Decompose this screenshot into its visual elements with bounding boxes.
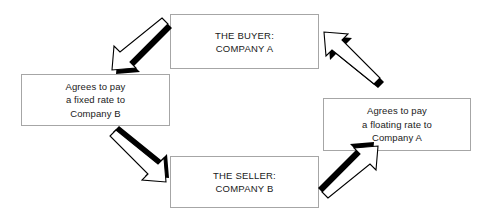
node-buyer[interactable]: THE BUYER: COMPANY A (170, 14, 319, 69)
node-buyer-line-1: THE BUYER: (215, 29, 274, 42)
node-seller-line-2: COMPANY B (216, 182, 274, 195)
node-fixed-rate-leg-line-3: Company B (70, 107, 121, 121)
node-floating-rate-leg-line-3: Company A (372, 131, 422, 145)
node-fixed-rate-leg-line-2: a fixed rate to (66, 93, 125, 107)
arrow-floating-rate-to-buyer-icon (318, 30, 386, 92)
node-seller-line-1: THE SELLER: (213, 169, 276, 182)
arrow-buyer-to-fixed-rate-icon (106, 14, 174, 76)
swap-flow-diagram: THE BUYER: COMPANY A Agrees to pay a fix… (0, 0, 491, 219)
node-floating-rate-leg[interactable]: Agrees to pay a floating rate to Company… (323, 98, 471, 151)
node-floating-rate-leg-line-1: Agrees to pay (367, 104, 427, 118)
node-seller[interactable]: THE SELLER: COMPANY B (170, 156, 319, 208)
node-fixed-rate-leg-line-1: Agrees to pay (66, 80, 126, 94)
node-buyer-line-2: COMPANY A (216, 42, 273, 55)
arrow-fixed-rate-to-seller-icon (106, 126, 174, 188)
node-floating-rate-leg-line-2: a floating rate to (362, 118, 432, 132)
arrow-seller-to-floating-rate-icon (318, 144, 386, 206)
node-fixed-rate-leg[interactable]: Agrees to pay a fixed rate to Company B (21, 74, 170, 126)
